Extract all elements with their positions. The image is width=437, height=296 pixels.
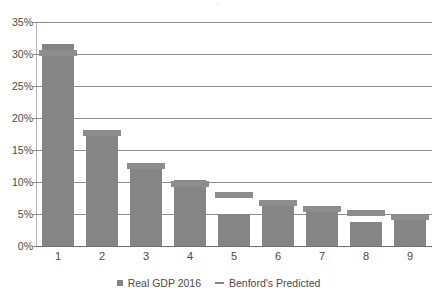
marker-slot: [80, 22, 124, 246]
y-tick-label: 10%: [3, 176, 33, 188]
y-axis: 0%5%10%15%20%25%30%35%: [0, 22, 33, 246]
marker-slot: [300, 22, 344, 246]
legend-label-real-gdp: Real GDP 2016: [128, 277, 201, 289]
marker-slot: [124, 22, 168, 246]
square-swatch-icon: [117, 280, 123, 286]
legend-item-benford[interactable]: Benford's Predicted: [215, 277, 320, 289]
chart-title-fragment: .: [0, 0, 437, 12]
benford-marker-digit-7[interactable]: [303, 206, 342, 212]
x-tick-label-2: 2: [80, 250, 124, 262]
benford-marker-digit-9[interactable]: [391, 214, 430, 220]
legend-item-real-gdp[interactable]: Real GDP 2016: [117, 277, 201, 289]
marker-slot: [168, 22, 212, 246]
x-axis-labels: 123456789: [36, 250, 432, 268]
benford-marker-group: [36, 22, 432, 246]
benford-marker-digit-8[interactable]: [347, 210, 386, 216]
x-tick-label-4: 4: [168, 250, 212, 262]
marker-slot: [388, 22, 432, 246]
chart-legend: Real GDP 2016 Benford's Predicted: [0, 274, 437, 292]
y-tick-label: 20%: [3, 112, 33, 124]
x-tick-label-1: 1: [36, 250, 80, 262]
benford-gdp-chart: . 0%5%10%15%20%25%30%35% 123456789 Real …: [0, 0, 437, 296]
legend-label-benford: Benford's Predicted: [229, 277, 320, 289]
benford-marker-digit-6[interactable]: [259, 200, 298, 206]
benford-marker-digit-5[interactable]: [215, 192, 254, 198]
marker-slot: [212, 22, 256, 246]
x-tick-label-5: 5: [212, 250, 256, 262]
benford-marker-digit-2[interactable]: [83, 130, 122, 136]
y-tick-label: 35%: [3, 16, 33, 28]
y-tick-label: 15%: [3, 144, 33, 156]
x-tick-label-3: 3: [124, 250, 168, 262]
x-tick-label-9: 9: [388, 250, 432, 262]
y-tick-label: 30%: [3, 48, 33, 60]
benford-marker-digit-1[interactable]: [39, 50, 78, 56]
benford-marker-digit-4[interactable]: [171, 181, 210, 187]
gridline-0%: [36, 246, 432, 247]
x-tick-label-8: 8: [344, 250, 388, 262]
x-tick-label-6: 6: [256, 250, 300, 262]
line-swatch-icon: [215, 282, 224, 284]
y-tick-label: 0%: [3, 240, 33, 252]
y-tick-label: 25%: [3, 80, 33, 92]
marker-slot: [344, 22, 388, 246]
plot-area: [36, 22, 432, 246]
x-tick-label-7: 7: [300, 250, 344, 262]
marker-slot: [256, 22, 300, 246]
marker-slot: [36, 22, 80, 246]
y-tick-label: 5%: [3, 208, 33, 220]
benford-marker-digit-3[interactable]: [127, 163, 166, 169]
